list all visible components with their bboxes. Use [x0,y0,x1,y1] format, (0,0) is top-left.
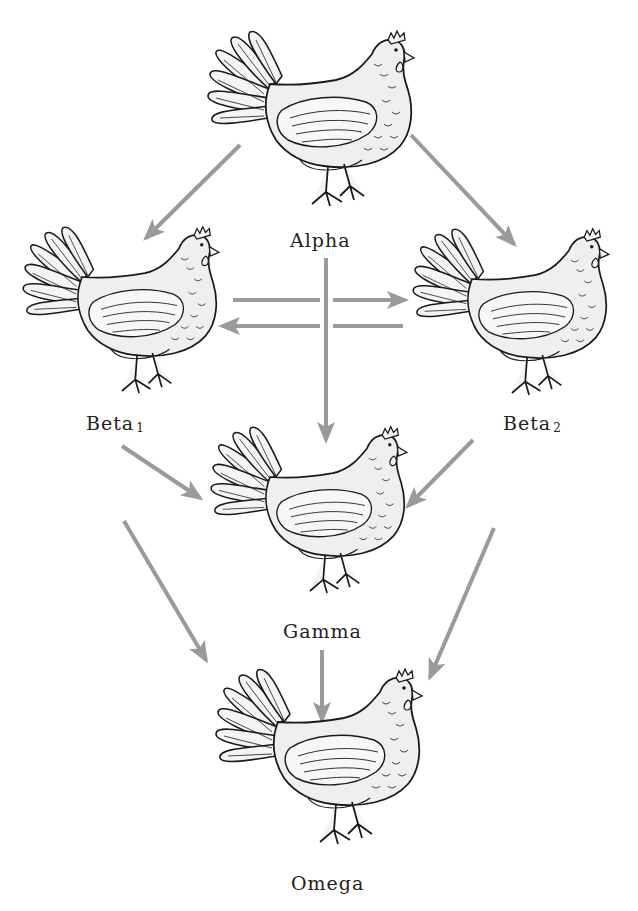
beta1-hen-illustration [14,220,228,410]
label-alpha: Alpha [290,229,351,251]
label-gamma: Gamma [283,620,362,642]
label-beta2: Beta2 [503,412,562,435]
arrow-beta1-omega [124,521,206,660]
gamma-hen-illustration [202,420,416,610]
label-beta1: Beta1 [86,412,145,435]
arrow-beta2-gamma [408,440,473,506]
label-omega: Omega [291,872,364,894]
alpha-hen-illustration [204,24,418,224]
arrow-beta1-gamma [122,446,200,498]
pecking-order-diagram: Alpha Beta1 Beta2 Gamma Omega [0,0,638,911]
omega-hen-illustration [212,662,426,862]
beta2-hen-illustration [404,222,618,412]
arrow-beta2-omega [430,528,494,677]
